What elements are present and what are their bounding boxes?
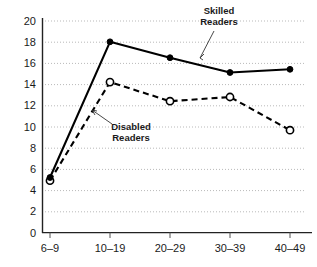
series-skilled-readers xyxy=(47,39,293,181)
y-tick-labels: 0 2 4 6 8 10 12 14 16 18 20 xyxy=(24,15,36,239)
skilled-readers-annotation: Skilled Readers xyxy=(200,5,238,27)
skilled-readers-annotation-line2: Readers xyxy=(200,16,238,27)
disabled-readers-leader xyxy=(92,110,112,124)
disabled-readers-annotation: Disabled Readers xyxy=(111,121,151,143)
skilled-readers-leader xyxy=(200,31,214,58)
disabled-readers-point-1 xyxy=(106,79,113,86)
skilled-readers-point-3 xyxy=(227,70,233,76)
skilled-readers-annotation-line1: Skilled xyxy=(204,5,235,16)
x-tick-label-6-9: 6–9 xyxy=(41,242,59,254)
skilled-readers-point-4 xyxy=(287,66,293,72)
x-tick-label-20-29: 20–29 xyxy=(155,242,186,254)
disabled-readers-annotation-line1: Disabled xyxy=(111,121,151,132)
skilled-readers-point-0 xyxy=(47,175,53,181)
x-tick-labels: 6–9 10–19 20–29 30–39 40–49 xyxy=(41,242,305,254)
y-tick-label-16: 16 xyxy=(24,57,36,69)
y-tick-label-2: 2 xyxy=(30,205,36,217)
y-tick-label-14: 14 xyxy=(24,78,36,90)
y-tick-label-4: 4 xyxy=(30,184,36,196)
y-tick-label-12: 12 xyxy=(24,99,36,111)
y-tick-label-10: 10 xyxy=(24,121,36,133)
y-tick-label-6: 6 xyxy=(30,163,36,175)
gridlines xyxy=(42,21,306,212)
skilled-readers-point-2 xyxy=(167,55,173,61)
y-tick-label-8: 8 xyxy=(30,142,36,154)
disabled-readers-point-2 xyxy=(166,98,173,105)
x-tick-label-30-39: 30–39 xyxy=(215,242,246,254)
line-chart-figure: 0 2 4 6 8 10 12 14 16 18 20 6–9 10–19 20… xyxy=(0,0,317,267)
x-tick-label-40-49: 40–49 xyxy=(275,242,306,254)
y-tick-label-0: 0 xyxy=(30,227,36,239)
y-tick-label-18: 18 xyxy=(24,36,36,48)
disabled-readers-point-4 xyxy=(286,127,293,134)
y-tick-label-20: 20 xyxy=(24,15,36,27)
series-disabled-readers xyxy=(46,79,293,185)
disabled-readers-annotation-line2: Readers xyxy=(112,132,150,143)
disabled-readers-point-3 xyxy=(226,93,233,100)
x-tick-label-10-19: 10–19 xyxy=(95,242,126,254)
chart-canvas: 0 2 4 6 8 10 12 14 16 18 20 6–9 10–19 20… xyxy=(0,0,317,267)
skilled-readers-point-1 xyxy=(107,39,113,45)
